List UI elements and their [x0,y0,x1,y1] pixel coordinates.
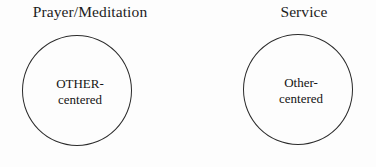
circle-label-line-1: OTHER- [29,76,131,92]
diagram-panel-service: Service Other- centered [188,0,376,167]
diagram-panel-prayer-meditation: Prayer/Meditation OTHER- centered [0,0,188,167]
circle-label-service: Other- centered [244,75,352,107]
circle-prayer-meditation: OTHER- centered [22,35,132,146]
panel-title-prayer-meditation: Prayer/Meditation [0,2,184,21]
concept-diagram: Prayer/Meditation OTHER- centered Servic… [0,0,376,167]
circle-label-prayer-meditation: OTHER- centered [23,76,131,108]
circle-label-line-2: centered [29,92,131,108]
circle-label-line-1: Other- [250,75,352,91]
circle-label-line-2: centered [250,91,352,107]
panel-title-service: Service [210,2,376,21]
circle-service: Other- centered [243,34,353,145]
